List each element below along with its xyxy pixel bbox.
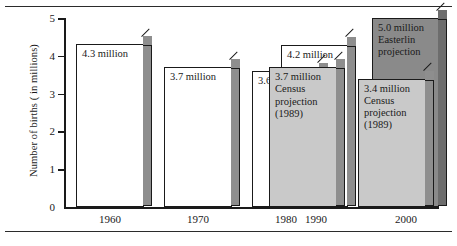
plot-area: Number of births ( in millions) 5 4 3 2 … <box>0 0 457 246</box>
x-axis-line <box>64 207 439 209</box>
bar-label-line: projection <box>364 107 421 119</box>
y-tick-label-2: 2 <box>33 126 55 137</box>
bar-top-3d <box>438 10 447 19</box>
bar-label-line: projection <box>275 96 332 108</box>
bar-label-line: projection <box>378 46 434 58</box>
bar-label-line: Census <box>275 83 332 95</box>
bar-2000-census-3-4[interactable]: 3.4 million Census projection (1989) <box>358 79 426 208</box>
y-tick-label-4: 4 <box>33 51 55 62</box>
y-axis-line <box>64 18 66 208</box>
y-tick-label-3: 3 <box>33 89 55 100</box>
y-tick-4 <box>58 56 65 58</box>
bar-label-line: (1989) <box>364 119 421 131</box>
bar-top-3d <box>336 59 345 68</box>
bar-top-3d <box>425 71 434 80</box>
bar-label-line: 4.3 million <box>82 48 139 60</box>
bar-label-line: 3.7 million <box>275 71 332 83</box>
bar-label: 3.7 million Census projection (1989) <box>275 71 332 120</box>
bar-top-3d <box>231 59 240 68</box>
y-axis-title: Number of births ( in millions) <box>28 16 39 206</box>
x-tick-label-1990: 1990 <box>286 213 346 225</box>
bar-1990-census-3-7[interactable]: 3.7 million Census projection (1989) <box>269 67 337 207</box>
bar-label-line: 3.7 million <box>170 71 227 83</box>
y-tick-2 <box>58 131 65 133</box>
y-tick-label-5: 5 <box>33 13 55 24</box>
bar-top-3d <box>143 36 152 45</box>
bar-1960-4-3[interactable]: 4.3 million <box>76 44 144 207</box>
bar-1970-3-7[interactable]: 3.7 million <box>164 67 232 207</box>
bar-label-line: 3.4 million <box>364 83 421 95</box>
bar-label: 3.7 million <box>170 71 227 83</box>
y-tick-1 <box>58 169 65 171</box>
bar-side-3d <box>438 19 447 206</box>
bar-side-3d <box>336 68 345 206</box>
bar-side-3d <box>347 46 356 207</box>
births-bar-chart-figure: Number of births ( in millions) 5 4 3 2 … <box>0 0 457 246</box>
x-tick-label-1970: 1970 <box>168 213 228 225</box>
x-tick-label-1960: 1960 <box>80 213 140 225</box>
bar-side-3d <box>231 68 240 206</box>
bar-label-line: Easterlin <box>378 34 434 46</box>
bar-label-line: 5.0 million <box>378 22 434 34</box>
bar-label: 4.3 million <box>82 48 139 60</box>
x-tick-label-2000: 2000 <box>376 213 436 225</box>
bar-label-line: Census <box>364 95 421 107</box>
y-tick-label-1: 1 <box>33 164 55 175</box>
y-tick-5 <box>58 18 65 20</box>
bar-side-3d <box>425 80 434 207</box>
y-tick-label-0: 0 <box>33 202 55 213</box>
bar-top-3d <box>347 37 356 46</box>
y-tick-3 <box>58 94 65 96</box>
bar-label-line: (1989) <box>275 108 332 120</box>
bar-side-3d <box>143 45 152 206</box>
bar-label: 3.4 million Census projection (1989) <box>364 83 421 132</box>
bar-label: 5.0 million Easterlin projection <box>378 22 434 59</box>
